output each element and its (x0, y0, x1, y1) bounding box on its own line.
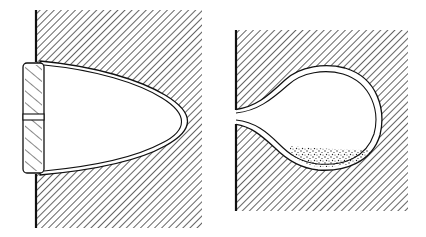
plug-slot (23, 114, 44, 120)
neck-opening (228, 110, 236, 124)
right-panel (228, 30, 408, 211)
plug (23, 63, 44, 173)
diagram-figure: Two cross-section drawings of cavities i… (0, 0, 426, 237)
left-panel (23, 10, 202, 228)
